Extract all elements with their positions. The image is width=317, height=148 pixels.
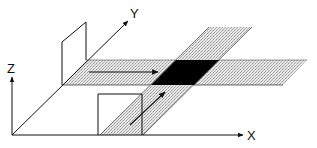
z-axis-label: Z [7,61,15,76]
y-axis-label: Y [130,6,139,21]
axes-diagram: X Y Z [0,0,317,148]
x-axis-label: X [247,128,256,143]
